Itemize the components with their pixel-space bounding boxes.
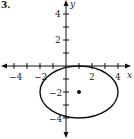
y-tick-label-2: 2 (55, 35, 61, 45)
x-tick-label-neg4: −4 (9, 72, 23, 82)
x-axis-right-arrow-icon (125, 64, 131, 69)
y-axis-label: y (69, 0, 76, 9)
x-tick-label-4: 4 (115, 72, 121, 82)
y-axis-down-arrow-icon (64, 132, 69, 138)
y-tick-label-neg2: −2 (49, 88, 62, 98)
x-tick-label-neg2: −2 (34, 72, 47, 82)
x-tick-label-2: 2 (89, 72, 95, 82)
ellipse-center-point (77, 90, 81, 94)
problem-number: 3. (1, 0, 10, 10)
y-tick-label-4: 4 (55, 9, 61, 19)
y-axis-up-arrow-icon (64, 0, 69, 6)
coordinate-plot: 3. −4 −2 2 4 x (0, 0, 134, 139)
x-axis-left-arrow-icon (1, 64, 7, 69)
x-axis-label: x (127, 70, 132, 80)
